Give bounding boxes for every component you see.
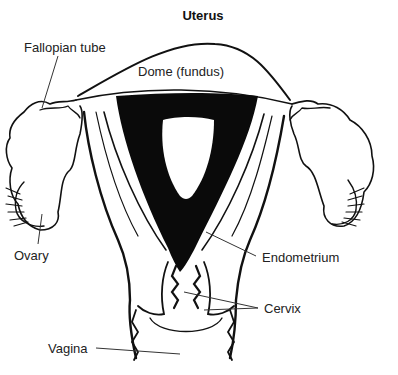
- label-ovary: Ovary: [14, 248, 49, 263]
- label-vagina: Vagina: [48, 341, 88, 356]
- label-dome: Dome (fundus): [138, 64, 224, 79]
- uterus-illustration: [0, 0, 398, 375]
- label-endometrium: Endometrium: [262, 250, 339, 265]
- right-fallopian-tube: [290, 101, 374, 226]
- cervix-outline: [138, 262, 168, 315]
- label-fallopian-tube: Fallopian tube: [24, 40, 106, 55]
- left-ovary: [15, 182, 44, 226]
- uterus-diagram: Uterus: [0, 0, 398, 375]
- label-cervix: Cervix: [264, 301, 301, 316]
- left-fallopian-tube: [6, 100, 82, 230]
- leader-fallopian-tube: [42, 56, 58, 108]
